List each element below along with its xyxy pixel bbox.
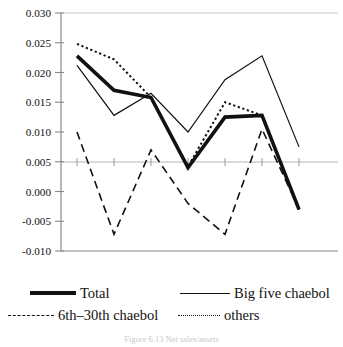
- figure-container: 0.030 0.025 0.020 0.015 0.010 0.005 0.00…: [0, 0, 343, 347]
- chart-legend: Total Big five chaebol 6th–30th chaebol …: [0, 286, 343, 332]
- legend-label-big-five-chaebol: Big five chaebol: [234, 286, 330, 301]
- legend-label-total: Total: [80, 286, 110, 301]
- axis-group: [61, 13, 338, 251]
- line-chart: 0.030 0.025 0.020 0.015 0.010 0.005 0.00…: [0, 0, 343, 262]
- series-group: [77, 44, 299, 234]
- y-label-2: 0.020: [26, 67, 52, 79]
- y-label-0: 0.030: [26, 7, 52, 19]
- legend-item-total: Total: [30, 286, 110, 301]
- dotted-line-swatch-icon: [178, 315, 220, 316]
- legend-item-big-five-chaebol: Big five chaebol: [180, 286, 330, 301]
- dashed-line-swatch-icon: [8, 315, 54, 316]
- solid-line-swatch-icon: [180, 293, 230, 294]
- legend-row-1: Total Big five chaebol: [0, 286, 343, 307]
- legend-label-6th-30th-chaebol: 6th–30th chaebol: [58, 308, 158, 323]
- plot-area: 0.030 0.025 0.020 0.015 0.010 0.005 0.00…: [0, 0, 343, 262]
- y-label-4: 0.010: [26, 126, 52, 138]
- y-label-3: 0.015: [26, 96, 52, 108]
- legend-item-others: others: [178, 308, 259, 323]
- y-label-1: 0.025: [26, 37, 52, 49]
- series-line-big-five-chaebol: [77, 56, 299, 147]
- legend-row-2: 6th–30th chaebol others: [0, 308, 343, 329]
- y-label-7: -0.005: [22, 215, 51, 227]
- series-line-6th-30th-chaebol: [77, 129, 299, 234]
- figure-caption: Figure 6.13 Net sales/assets: [0, 334, 343, 346]
- y-tick-marks: [55, 13, 64, 251]
- legend-label-others: others: [224, 308, 259, 323]
- legend-item-6th-30th-chaebol: 6th–30th chaebol: [8, 308, 158, 323]
- y-label-5: 0.005: [26, 156, 52, 168]
- y-label-6: 0.000: [26, 186, 52, 198]
- y-tick-labels: 0.030 0.025 0.020 0.015 0.010 0.005 0.00…: [22, 7, 51, 257]
- y-label-8: -0.010: [22, 245, 51, 257]
- thick-line-swatch-icon: [30, 291, 76, 295]
